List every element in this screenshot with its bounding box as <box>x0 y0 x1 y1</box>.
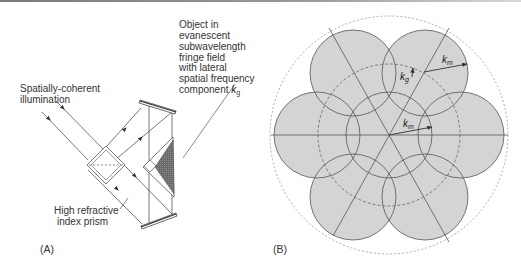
object-label-line-3: subwavelength <box>179 41 246 52</box>
object-label-line-5: with lateral <box>178 62 227 73</box>
object-label-line-2: evanescent <box>179 30 230 41</box>
prism-label-line-2: index prism <box>57 216 108 227</box>
upper-mirror <box>139 100 176 114</box>
object-leader-line <box>183 84 235 158</box>
illumination-label-line-1: Spatially-coherent <box>20 83 100 94</box>
incident-beam-2 <box>56 101 104 150</box>
panel-a-label: (A) <box>40 243 54 255</box>
beam-splitter-prism <box>87 146 125 184</box>
lower-mirror <box>141 213 177 229</box>
panel-b-label: (B) <box>273 243 287 255</box>
prism-label-line-1: High refractive <box>54 205 119 216</box>
incident-beam-1 <box>42 112 88 160</box>
illumination-label-line-2: illumination <box>20 94 70 105</box>
panel-b-diagram <box>270 16 508 254</box>
object-label-line-1: Object in <box>179 19 218 30</box>
object-label-line-6: spatial frequency <box>179 73 255 84</box>
figure: Spatially-coherent illumination Object i… <box>0 0 521 271</box>
object-label-line-7: component kg <box>179 84 240 97</box>
